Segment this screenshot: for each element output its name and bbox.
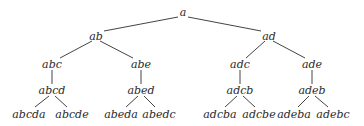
- tree-node-abcda: abcda: [12, 109, 45, 120]
- tree-node-adeba: adeba: [277, 109, 311, 120]
- tree-edge-ad-adc: [246, 41, 265, 58]
- tree-node-adeb: adeb: [298, 85, 325, 96]
- tree-edge-abcd-abcda: [35, 96, 49, 107]
- tree-node-ad: ad: [262, 31, 276, 42]
- tree-edge-adcb-adcbe: [243, 96, 255, 107]
- tree-node-ade: ade: [302, 59, 322, 70]
- tree-edge-a-ab: [104, 17, 178, 31]
- tree-edge-abcd-abcde: [55, 96, 67, 107]
- tree-node-a: a: [180, 7, 187, 18]
- tree-node-ab: ab: [89, 31, 103, 42]
- tree-edge-abed-abeda: [126, 96, 138, 107]
- tree-node-abe: abe: [131, 59, 151, 70]
- tree-node-adc: adc: [230, 59, 250, 70]
- tree-node-adcb: adcb: [227, 85, 254, 96]
- tree-node-adebc: adebc: [316, 109, 349, 120]
- tree-node-abedc: abedc: [142, 109, 175, 120]
- tree-node-abcde: abcde: [55, 109, 88, 120]
- tree-node-abeda: abeda: [104, 109, 138, 120]
- tree-edge-ab-abc: [60, 41, 92, 58]
- tree-edge-adeb-adebc: [315, 96, 328, 107]
- tree-node-adcbe: adcbe: [242, 109, 275, 120]
- tree-edge-a-ad: [188, 17, 261, 31]
- tree-node-abcd: abcd: [39, 85, 66, 96]
- tree-edge-abed-abedc: [144, 96, 155, 107]
- tree-edge-ab-abe: [100, 41, 133, 58]
- tree-diagram: aabadabcabeadcadeabcdabedadcbadebabcdaab…: [0, 0, 364, 126]
- tree-edge-adeb-adeba: [298, 96, 309, 107]
- tree-node-adcba: adcba: [203, 109, 236, 120]
- tree-node-abc: abc: [42, 59, 62, 70]
- tree-edge-adcb-adcba: [225, 96, 237, 107]
- tree-node-abed: abed: [127, 85, 154, 96]
- tree-edge-ad-ade: [273, 41, 305, 58]
